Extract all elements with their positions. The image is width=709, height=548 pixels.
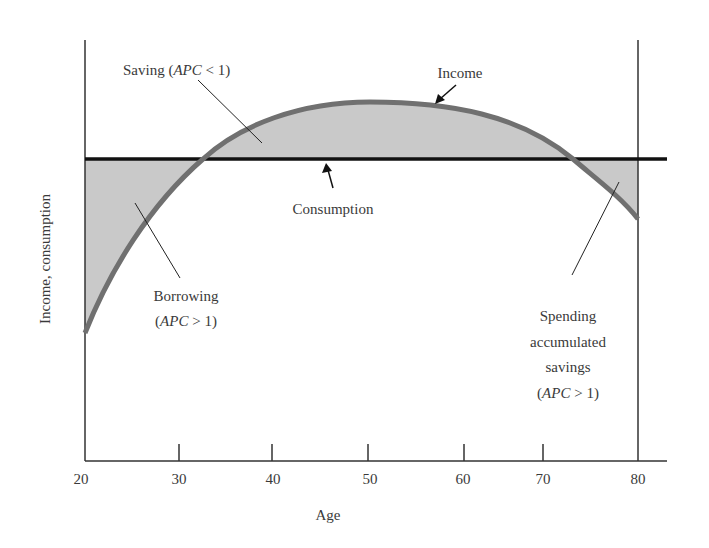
income-arrow: [435, 85, 456, 104]
tick-label-30: 30: [172, 471, 187, 487]
y-axis-label: Income, consumption: [37, 194, 53, 324]
tick-label-70: 70: [536, 471, 551, 487]
spending-annotation-line1: Spending: [540, 308, 597, 324]
tick-label-40: 40: [266, 471, 281, 487]
borrowing-region: [85, 159, 203, 333]
tick-label-20: 20: [74, 471, 89, 487]
saving-annotation: Saving (APC < 1): [123, 62, 230, 79]
consumption-arrow: [322, 163, 333, 188]
x-ticks: [179, 444, 543, 461]
borrowing-annotation: Borrowing: [154, 288, 219, 304]
spending-annotation-line3: savings: [546, 359, 591, 375]
spending-leader: [572, 182, 619, 275]
x-axis-label: Age: [316, 507, 341, 523]
borrowing-apc-annotation: (APC > 1): [155, 313, 217, 330]
x-tick-labels: 20 30 40 50 60 70 80: [74, 471, 646, 487]
income-annotation: Income: [438, 65, 483, 81]
spending-annotation-line2: accumulated: [530, 334, 606, 350]
borrowing-leader: [135, 203, 180, 278]
consumption-annotation: Consumption: [293, 201, 374, 217]
saving-leader: [198, 80, 262, 143]
life-cycle-chart: 20 30 40 50 60 70 80 Age Income, consump…: [0, 0, 709, 548]
tick-label-60: 60: [456, 471, 471, 487]
saving-region: [203, 102, 573, 159]
spending-apc-annotation: (APC > 1): [537, 385, 599, 402]
tick-label-80: 80: [631, 471, 646, 487]
tick-label-50: 50: [363, 471, 378, 487]
